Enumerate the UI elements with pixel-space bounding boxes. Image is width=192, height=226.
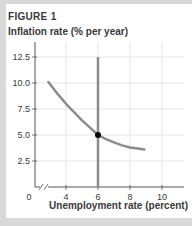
chart-plot: 2.55.07.510.012.5046810 xyxy=(0,0,192,226)
x-tick-label: 0 xyxy=(26,192,31,202)
y-tick-label: 5.0 xyxy=(17,130,30,140)
y-tick-label: 10.0 xyxy=(12,78,30,88)
y-tick-label: 12.5 xyxy=(12,52,30,62)
axes xyxy=(32,42,184,190)
y-tick-label: 2.5 xyxy=(17,156,30,166)
gridlines xyxy=(35,42,184,187)
x-axis-label: Unemployment rate (percent) xyxy=(49,200,188,211)
y-tick-label: 7.5 xyxy=(17,104,30,114)
equilibrium-point xyxy=(95,132,101,138)
